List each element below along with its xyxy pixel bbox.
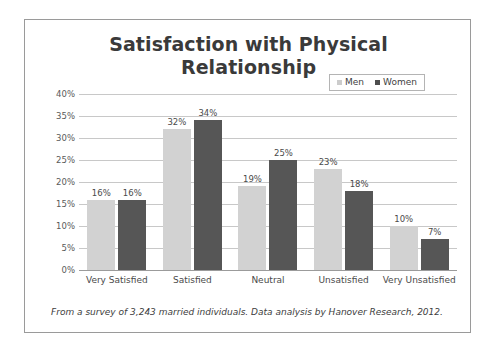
axis-baseline: [79, 270, 457, 271]
bar-men[interactable]: 32%: [163, 129, 191, 270]
x-axis-tick-label: Satisfied: [155, 272, 231, 286]
bar-women[interactable]: 25%: [269, 160, 297, 270]
chart-title-line-1: Satisfaction with Physical: [65, 33, 432, 56]
y-axis-tick-label: 35%: [33, 111, 75, 121]
bar-group: 16%16%: [79, 94, 155, 270]
plot-wrapper: 40%35%30%25%20%15%10%5%0% 16%16%32%34%19…: [25, 94, 472, 284]
x-axis-tick-label: Unsatisfied: [306, 272, 382, 286]
bar-men[interactable]: 10%: [390, 226, 418, 270]
bar-men[interactable]: 19%: [238, 186, 266, 270]
bar-value-label: 16%: [123, 188, 142, 198]
bar-women[interactable]: 16%: [118, 200, 146, 270]
y-axis-tick-label: 10%: [33, 221, 75, 231]
bar-value-label: 10%: [394, 214, 413, 224]
x-axis-tick-label: Very Satisfied: [79, 272, 155, 286]
bar-group: 23%18%: [306, 94, 382, 270]
chart-card: Satisfaction with Physical Relationship …: [24, 19, 471, 333]
legend-swatch-men-icon: [337, 80, 342, 85]
y-axis-tick-label: 5%: [33, 243, 75, 253]
y-axis-tick-label: 0%: [33, 265, 75, 275]
legend-swatch-women-icon: [375, 80, 380, 85]
bar-women[interactable]: 18%: [345, 191, 373, 270]
x-axis: Very SatisfiedSatisfiedNeutralUnsatisfie…: [79, 272, 457, 286]
bar-value-label: 34%: [198, 108, 217, 118]
y-axis-tick-label: 30%: [33, 133, 75, 143]
y-axis-tick-label: 20%: [33, 177, 75, 187]
legend-item-men: Men: [337, 77, 364, 87]
legend-label-men: Men: [345, 77, 364, 87]
y-axis-tick-label: 25%: [33, 155, 75, 165]
bar-group: 32%34%: [155, 94, 231, 270]
bar-group: 10%7%: [381, 94, 457, 270]
plot-area: 16%16%32%34%19%25%23%18%10%7%: [79, 94, 457, 270]
x-axis-tick-label: Neutral: [230, 272, 306, 286]
bar-value-label: 16%: [92, 188, 111, 198]
y-axis-tick-label: 40%: [33, 89, 75, 99]
bar-value-label: 19%: [243, 174, 262, 184]
bar-women[interactable]: 7%: [421, 239, 449, 270]
bar-women[interactable]: 34%: [194, 120, 222, 270]
legend-item-women: Women: [375, 77, 417, 87]
bar-value-label: 25%: [274, 148, 293, 158]
bar-value-label: 32%: [167, 117, 186, 127]
y-axis: 40%35%30%25%20%15%10%5%0%: [33, 94, 75, 270]
chart-title: Satisfaction with Physical Relationship: [65, 33, 432, 79]
chart-footnote: From a survey of 3,243 married individua…: [51, 307, 443, 317]
bar-men[interactable]: 23%: [314, 169, 342, 270]
bar-groups: 16%16%32%34%19%25%23%18%10%7%: [79, 94, 457, 270]
bar-group: 19%25%: [230, 94, 306, 270]
bar-value-label: 23%: [319, 157, 338, 167]
y-axis-tick-label: 15%: [33, 199, 75, 209]
bar-value-label: 7%: [428, 227, 442, 237]
bar-men[interactable]: 16%: [87, 200, 115, 270]
chart-legend: Men Women: [329, 74, 425, 91]
x-axis-tick-label: Very Unsatisfied: [381, 272, 457, 286]
legend-label-women: Women: [383, 77, 417, 87]
bar-value-label: 18%: [350, 179, 369, 189]
